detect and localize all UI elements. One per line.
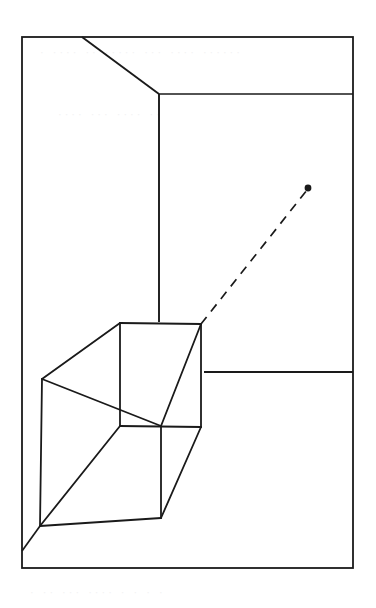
- wireframe-box-edges: [40, 323, 201, 526]
- box-edge-front_bottom_left-to-back_bottom_left: [40, 426, 120, 526]
- outer-picture-frame: [22, 37, 353, 568]
- floating-point-marker: [305, 185, 312, 192]
- box-edge-back_top_left-to-back_top_right: [120, 323, 201, 324]
- box-edge-front_bottom_left-to-front_top_left: [40, 379, 42, 526]
- line-drawing-svg: [0, 0, 376, 608]
- box-edge-front_top_left-to-back_top_left: [42, 323, 120, 379]
- figure-canvas: · ···· ·· ····· ··· ···· ······ ···· ···…: [0, 0, 376, 608]
- box-edge-front_top_right-to-back_top_right: [161, 324, 201, 426]
- box-edge-front_top_left-to-front_top_right: [42, 379, 161, 426]
- box-edge-front_bottom_right-to-back_bottom_right: [161, 427, 201, 518]
- dashed-sight-ray: [201, 190, 307, 324]
- box-edge-front_bottom_right-to-front_bottom_left: [40, 518, 161, 526]
- ceiling-edge-line: [82, 37, 159, 94]
- floor-left-edge-line: [22, 526, 40, 551]
- room-perspective-lines: [22, 37, 353, 551]
